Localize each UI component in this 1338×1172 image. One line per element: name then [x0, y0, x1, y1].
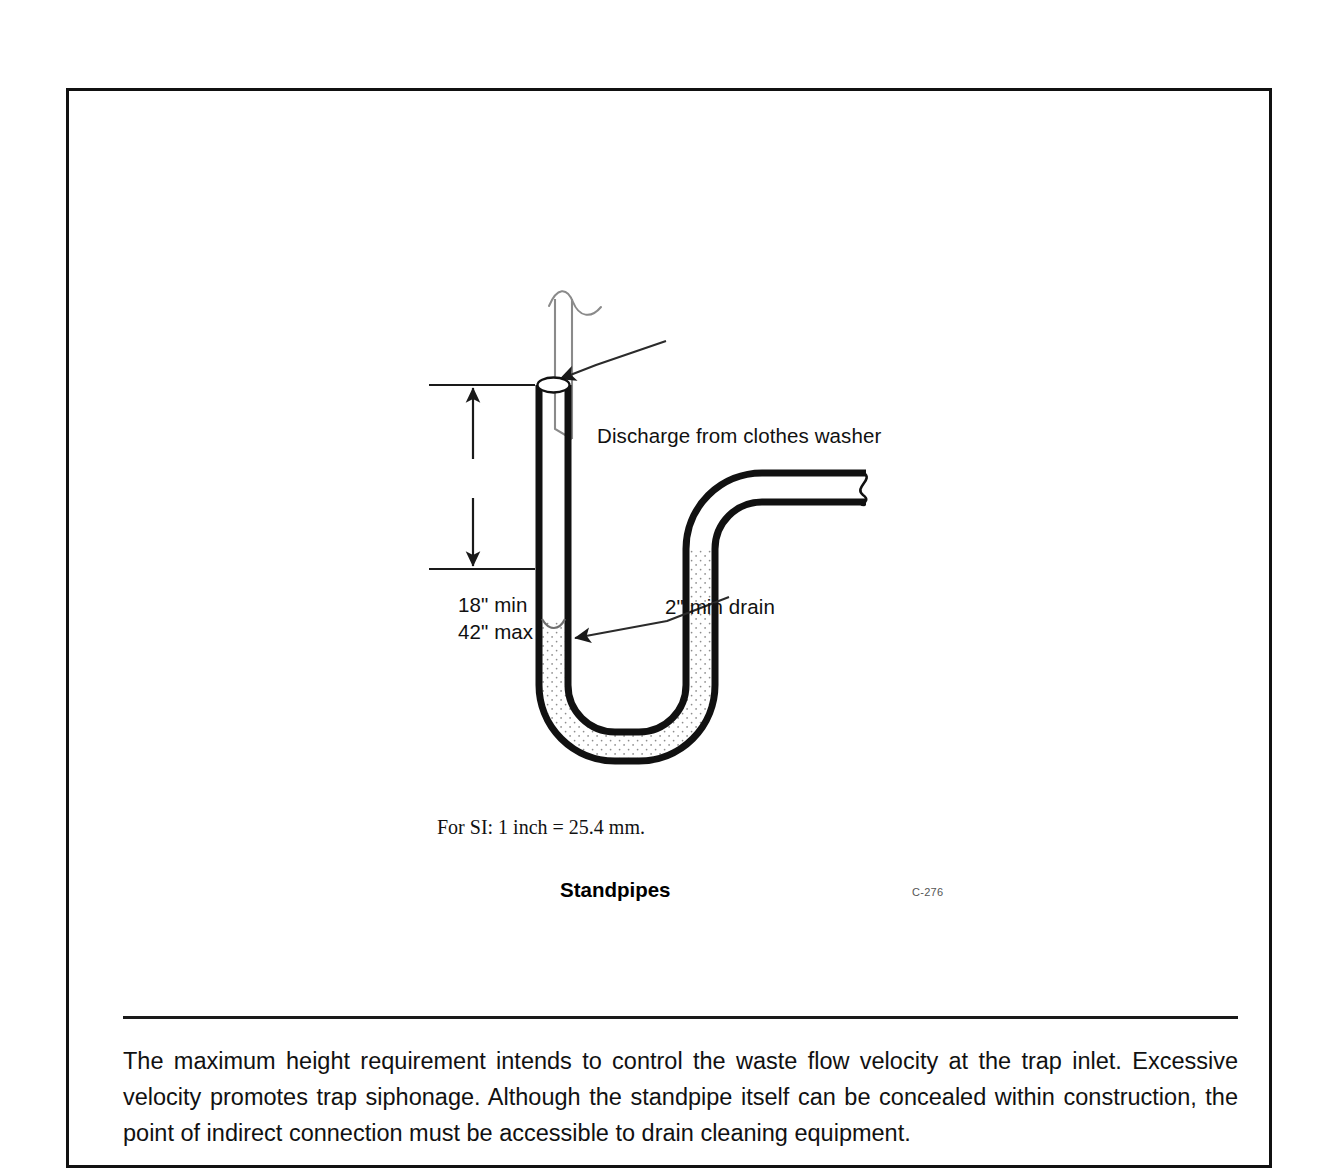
annotation-2in-min-drain: 2" min drain [665, 595, 775, 619]
standpipe-diagram [69, 91, 1275, 951]
dimension-max-label: 42" max [458, 618, 533, 645]
dimension-label-group: 18" min 42" max [458, 591, 533, 645]
height-dimension [429, 385, 535, 569]
si-conversion-note: For SI: 1 inch = 25.4 mm. [437, 816, 645, 839]
annotation-discharge-from-clothes-washer: Discharge from clothes washer [597, 424, 881, 448]
figure-area: Discharge from clothes washer 2" min dra… [69, 91, 1275, 951]
commentary-block: The maximum height requirement intends t… [123, 1016, 1238, 1172]
figure-number: C-276 [912, 886, 943, 898]
page-frame: Discharge from clothes washer 2" min dra… [66, 88, 1272, 1168]
dimension-min-label: 18" min [458, 591, 533, 618]
commentary-divider [123, 1016, 1238, 1019]
commentary-paragraph: The maximum height requirement intends t… [123, 1043, 1238, 1151]
hose-break-line [549, 291, 601, 315]
leader-discharge [560, 341, 666, 379]
figure-title: Standpipes [560, 878, 671, 902]
standpipe-open-rim [538, 378, 570, 393]
